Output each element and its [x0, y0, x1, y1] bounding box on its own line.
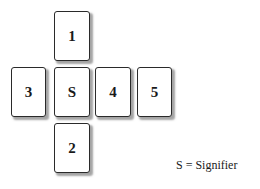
spread-card-5-label: 5: [151, 85, 159, 100]
spread-card-5[interactable]: 5: [137, 67, 172, 117]
spread-card-3-label: 3: [25, 85, 33, 100]
spread-card-2[interactable]: 2: [54, 123, 90, 173]
spread-card-4-label: 4: [109, 85, 117, 100]
spread-card-signifier-label: S: [68, 85, 76, 100]
signifier-legend: S = Signifier: [176, 159, 237, 171]
spread-card-signifier[interactable]: S: [54, 67, 90, 117]
card-spread-diagram: 1 3 S 4 5 2 S = Signifier: [0, 0, 260, 189]
spread-card-2-label: 2: [68, 141, 76, 156]
spread-card-1-label: 1: [68, 29, 76, 44]
spread-card-4[interactable]: 4: [95, 67, 131, 117]
spread-card-1[interactable]: 1: [54, 11, 90, 61]
spread-card-3[interactable]: 3: [11, 67, 46, 117]
